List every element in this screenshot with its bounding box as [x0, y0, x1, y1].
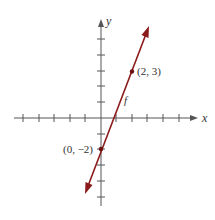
- function-label-f: f: [124, 94, 129, 106]
- x-axis-arrow-icon: [190, 115, 198, 121]
- point-label-0-neg2: (0, −2): [63, 143, 93, 156]
- point-label-2-3: (2, 3): [137, 65, 161, 78]
- y-axis-arrow-icon: [98, 19, 104, 27]
- line-arrow-down-icon: [85, 182, 93, 194]
- x-axis: [14, 114, 192, 122]
- point-0-neg2: [99, 147, 103, 151]
- y-axis: [97, 24, 105, 206]
- point-2-3: [130, 69, 134, 73]
- function-line-f: [85, 26, 149, 194]
- coordinate-plane: x y (0, −2) (2, 3) f: [0, 0, 215, 220]
- x-axis-label: x: [201, 111, 208, 125]
- y-axis-label: y: [105, 14, 112, 28]
- line-arrow-up-icon: [142, 26, 150, 38]
